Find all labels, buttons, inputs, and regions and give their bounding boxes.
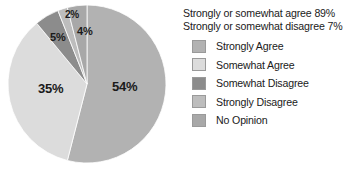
legend-item-label: Somewhat Agree [216,59,295,71]
pie-slice-value-label: 2% [65,10,79,20]
chart-figure: 54%35%5%2%4% Strongly or somewhat agree … [0,0,355,170]
legend-color-swatch [192,95,206,108]
pie-slice-value-label: 4% [77,26,93,37]
legend-color-swatch [192,114,206,127]
legend-item: Somewhat Disagree [183,74,355,93]
legend-item: No Opinion [183,111,355,130]
summary-line-agree: Strongly or somewhat agree 89% [183,7,355,20]
legend-item-label: Strongly Disagree [216,96,298,108]
summary-line-disagree: Strongly or somewhat disagree 7% [183,20,355,33]
legend-color-swatch [192,40,206,53]
legend-color-swatch [192,58,206,71]
legend-item-label: No Opinion [216,114,268,126]
pie-slice-value-label: 35% [38,82,63,95]
legend-item: Strongly Agree [183,37,355,56]
legend-color-swatch [192,77,206,90]
pie-slice-value-label: 54% [112,80,137,93]
legend-panel: Strongly or somewhat agree 89% Strongly … [183,0,355,170]
legend-item: Somewhat Agree [183,56,355,75]
pie-chart: 54%35%5%2%4% [0,0,178,170]
legend-item: Strongly Disagree [183,93,355,112]
pie-slice-value-label: 5% [50,32,66,43]
legend-item-label: Strongly Agree [216,40,283,52]
legend-item-label: Somewhat Disagree [216,77,309,89]
legend-list: Strongly AgreeSomewhat AgreeSomewhat Dis… [183,37,355,130]
summary-block: Strongly or somewhat agree 89% Strongly … [183,0,355,32]
